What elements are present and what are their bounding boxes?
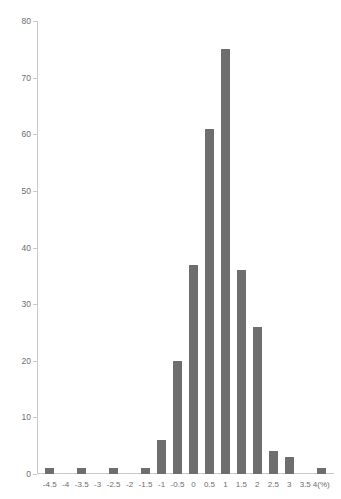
bar-column[interactable] [157,21,166,474]
x-axis-label: -4.5 [43,480,57,489]
bar[interactable] [205,129,214,474]
x-axis-label: 4(%) [313,480,330,489]
x-axis-label: 3 [287,480,291,489]
bar-column[interactable] [77,21,86,474]
bar[interactable] [237,270,246,474]
bar-column[interactable] [61,21,70,474]
bar-column[interactable] [237,21,246,474]
y-axis-tick [33,78,37,79]
y-axis-label: 40 [22,243,31,252]
y-axis-tick [33,304,37,305]
bar[interactable] [173,361,182,474]
bar-column[interactable] [141,21,150,474]
y-axis-tick [33,417,37,418]
bar-column[interactable] [205,21,214,474]
bar[interactable] [269,451,278,474]
x-axis-label: 3.5 [300,480,311,489]
y-axis-tick [33,191,37,192]
x-axis-label: 1.5 [236,480,247,489]
bar[interactable] [221,49,230,474]
bar-column[interactable] [269,21,278,474]
y-axis-label: 60 [22,130,31,139]
x-axis-label: 2 [255,480,259,489]
x-axis-label: -3 [94,480,101,489]
y-axis-label: 20 [22,356,31,365]
y-axis-tick [33,248,37,249]
y-axis-tick [33,361,37,362]
bar-column[interactable] [189,21,198,474]
x-axis-labels: -4.5-4-3.5-3-2.5-2-1.5-1-0.500.511.522.5… [37,474,334,494]
x-axis-label: -3.5 [75,480,89,489]
x-axis-label: 0.5 [204,480,215,489]
bar[interactable] [253,327,262,474]
chart-page: 01020304050607080 -4.5-4-3.5-3-2.5-2-1.5… [0,0,341,499]
y-axis-tick [33,134,37,135]
bar-column[interactable] [109,21,118,474]
plot-area: 01020304050607080 [37,21,334,474]
y-axis-tick [33,21,37,22]
y-axis-label: 0 [26,470,31,479]
bar[interactable] [157,440,166,474]
y-axis-line [37,21,38,474]
bar[interactable] [189,265,198,475]
bar-column[interactable] [93,21,102,474]
bar-column[interactable] [221,21,230,474]
y-axis-label: 80 [22,17,31,26]
y-axis-label: 70 [22,73,31,82]
bar-column[interactable] [125,21,134,474]
x-axis-label: 1 [223,480,227,489]
x-axis-label: -2 [126,480,133,489]
y-axis-label: 10 [22,413,31,422]
x-axis-label: 0 [191,480,195,489]
bar-column[interactable] [173,21,182,474]
bar-column[interactable] [317,21,326,474]
bar-column[interactable] [253,21,262,474]
bar-column[interactable] [45,21,54,474]
bar-column[interactable] [285,21,294,474]
bar-column[interactable] [301,21,310,474]
x-axis-label: 2.5 [268,480,279,489]
x-axis-label: -1 [158,480,165,489]
bar[interactable] [285,457,294,474]
x-axis-label: -2.5 [107,480,121,489]
x-axis-label: -0.5 [171,480,185,489]
y-axis-label: 30 [22,300,31,309]
y-axis-label: 50 [22,186,31,195]
x-axis-label: -4 [62,480,69,489]
x-axis-label: -1.5 [139,480,153,489]
